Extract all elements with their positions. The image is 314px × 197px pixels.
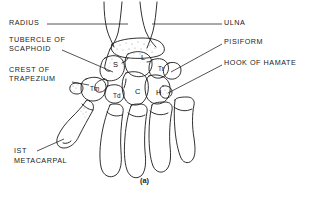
second-metacarpal-base-facet bbox=[107, 112, 122, 116]
lunate-outline bbox=[125, 52, 152, 77]
label-radius: RADIUS bbox=[9, 18, 39, 27]
first-metacarpal-head-notch bbox=[63, 141, 71, 143]
bone-label-hamate: H bbox=[156, 88, 161, 97]
pisiform-outline bbox=[163, 62, 181, 79]
intercarpal-detail-3 bbox=[124, 79, 126, 88]
first-metacarpal-outline bbox=[57, 100, 94, 148]
fourth-metacarpal-base-facet bbox=[150, 111, 168, 115]
label-hook-of-hamate: HOOK OF HAMATE bbox=[224, 58, 296, 67]
bone-label-triquetral: Tr bbox=[158, 65, 164, 72]
third-metacarpal-outline bbox=[124, 104, 147, 178]
bone-label-trapezoid: Td bbox=[113, 92, 120, 99]
leader-1st-metacarpal bbox=[37, 139, 64, 151]
third-metacarpal-base-facet bbox=[128, 113, 145, 117]
fifth-metacarpal-base-facet bbox=[174, 107, 192, 111]
bone-label-trapezium: Tm bbox=[90, 85, 99, 92]
leader-tubercle-of-scaphoid bbox=[62, 50, 113, 72]
label-ulna: ULNA bbox=[224, 18, 245, 27]
stipple-shading bbox=[73, 42, 168, 118]
wrist-bones-illustration bbox=[0, 0, 314, 197]
label-pisiform: PISIFORM bbox=[224, 37, 263, 46]
distal-forearm-block bbox=[111, 38, 164, 58]
bone-label-lunate: L bbox=[141, 53, 145, 62]
anatomy-figure: RADIUS TUBERCLE OF SCAPHOID CREST OF TRA… bbox=[0, 0, 314, 197]
bone-label-capitate: C bbox=[135, 87, 140, 96]
ulna-bone-outline bbox=[140, 2, 157, 48]
intercarpal-detail-2 bbox=[147, 60, 152, 62]
radius-bone-outline bbox=[104, 2, 122, 49]
radial-styloid bbox=[105, 49, 110, 71]
fifth-metacarpal-outline bbox=[174, 97, 195, 163]
figure-caption: (a) bbox=[140, 176, 149, 185]
bone-label-scaphoid: S bbox=[113, 60, 118, 69]
leader-pisiform bbox=[171, 44, 222, 72]
